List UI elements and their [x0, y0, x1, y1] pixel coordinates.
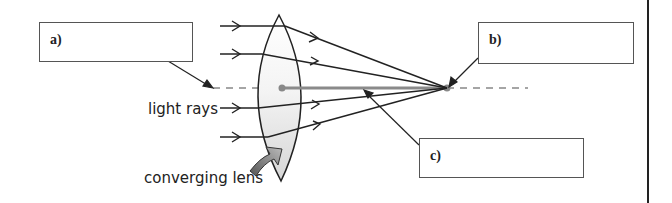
answer-box-b-label: b) — [489, 32, 501, 48]
light-rays-label: light rays — [148, 100, 218, 118]
converging-lens-label: converging lens — [144, 169, 263, 187]
answer-box-c[interactable]: c) — [419, 138, 584, 178]
answer-box-a[interactable]: a) — [39, 22, 193, 62]
answer-box-c-label: c) — [430, 148, 441, 164]
pointer-a — [168, 61, 209, 86]
answer-box-a-label: a) — [50, 32, 62, 48]
lens-center-dot — [279, 85, 286, 92]
pointer-b — [452, 58, 478, 84]
pointer-c — [367, 94, 419, 145]
answer-box-b[interactable]: b) — [478, 22, 634, 64]
